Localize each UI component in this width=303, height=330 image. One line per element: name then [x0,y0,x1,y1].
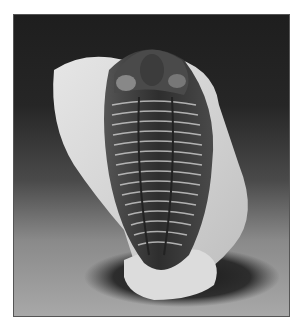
eye-right [168,74,186,88]
glabella [140,54,164,86]
eye-left [116,75,136,91]
trilobite-photo: Black and white photograph of a trilobit… [13,14,290,317]
trilobite-illustration [14,15,290,317]
